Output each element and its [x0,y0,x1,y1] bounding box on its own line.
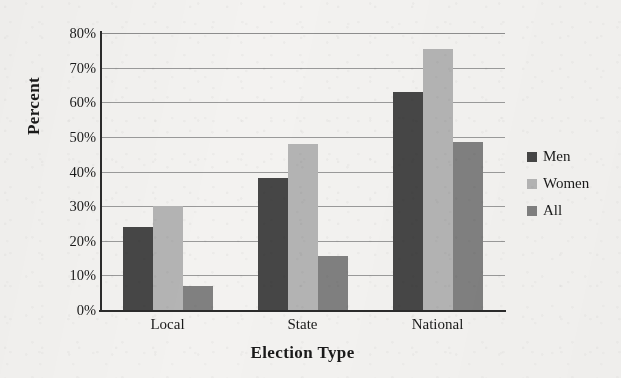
y-axis-tick-label: 40% [52,164,96,179]
y-axis-tick-label: 80% [52,26,96,41]
y-axis-tick-label: 50% [52,130,96,145]
legend-swatch-icon [527,206,537,216]
x-axis-line [99,310,506,312]
bar [153,206,183,310]
bars-layer [100,33,505,310]
bar [423,49,453,310]
y-axis-tick-label: 70% [52,60,96,75]
legend-item: Women [527,170,589,197]
y-axis-title: Percent [24,26,44,186]
legend-item: Men [527,143,589,170]
bar [393,92,423,310]
legend-label: All [543,203,562,218]
bar [288,144,318,310]
bar [123,227,153,310]
bar-group [123,33,213,310]
x-axis-title: Election Type [100,343,505,363]
bar [183,286,213,310]
bar-group [393,33,483,310]
legend-label: Men [543,149,571,164]
plot-area [100,33,505,310]
bar-group [258,33,348,310]
x-axis-tick-label: Local [150,316,184,333]
legend-label: Women [543,176,589,191]
x-axis-tick-label: State [288,316,318,333]
x-axis-tick-label: National [412,316,464,333]
y-axis-tick-label: 20% [52,234,96,249]
bar [318,256,348,310]
bar [258,178,288,310]
y-axis-line [100,31,102,312]
y-axis-tick-labels: 0%10%20%30%40%50%60%70%80% [52,33,96,310]
legend: MenWomenAll [527,143,589,224]
legend-swatch-icon [527,152,537,162]
y-axis-tick-label: 30% [52,199,96,214]
y-axis-tick-label: 0% [52,303,96,318]
legend-swatch-icon [527,179,537,189]
y-axis-tick-label: 60% [52,95,96,110]
bar-chart: Percent 0%10%20%30%40%50%60%70%80% Local… [0,0,621,378]
x-axis-tick-labels: LocalStateNational [100,316,505,342]
y-axis-tick-label: 10% [52,268,96,283]
legend-item: All [527,197,589,224]
bar [453,142,483,310]
